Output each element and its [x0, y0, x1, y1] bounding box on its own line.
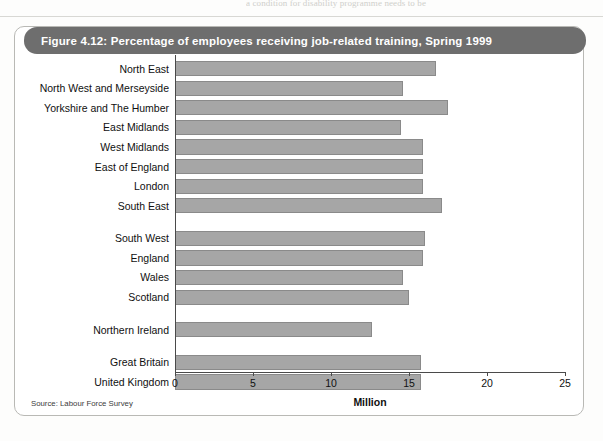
bar-row: West Midlands — [15, 137, 583, 157]
bar-category-label: London — [15, 181, 175, 192]
x-axis-tick-label: 15 — [403, 377, 415, 389]
bar-category-label: North East — [15, 64, 175, 75]
bar-track — [175, 59, 583, 79]
bar-track — [175, 248, 583, 268]
x-axis-title: Million — [175, 396, 565, 408]
bar — [175, 120, 401, 135]
x-axis-tick-label: 10 — [325, 377, 337, 389]
bar — [175, 100, 448, 115]
bar-group-spacer — [15, 216, 583, 229]
bar-category-label: England — [15, 253, 175, 264]
bar-track — [175, 98, 583, 118]
bar-category-label: Scotland — [15, 292, 175, 303]
bar — [175, 290, 409, 305]
bar-track — [175, 157, 583, 177]
bar — [175, 139, 423, 154]
bar-row: North East — [15, 59, 583, 79]
bar-track — [175, 196, 583, 216]
bar — [175, 250, 423, 265]
bar-row: Yorkshire and The Humber — [15, 98, 583, 118]
chart-plot-area: North EastNorth West and MerseysideYorks… — [15, 55, 583, 415]
bar-group-spacer — [15, 307, 583, 320]
bar-row: Wales — [15, 268, 583, 288]
bar-category-label: East Midlands — [15, 122, 175, 133]
bar-category-label: United Kingdom — [15, 377, 175, 388]
bar — [175, 61, 436, 76]
x-axis-tick-label: 20 — [481, 377, 493, 389]
bar — [175, 159, 423, 174]
bar-rows: North EastNorth West and MerseysideYorks… — [15, 59, 583, 392]
bar-category-label: Northern Ireland — [15, 325, 175, 336]
bar-category-label: South West — [15, 233, 175, 244]
bar-row: Northern Ireland — [15, 320, 583, 340]
bar-category-label: West Midlands — [15, 142, 175, 153]
bar-track — [175, 177, 583, 197]
bar — [175, 81, 403, 96]
bar-category-label: South East — [15, 201, 175, 212]
bar-row: Great Britain — [15, 353, 583, 373]
figure-panel: Figure 4.12: Percentage of employees rec… — [14, 26, 584, 416]
x-axis-tick-label: 5 — [250, 377, 256, 389]
figure-header-bar: Figure 4.12: Percentage of employees rec… — [24, 27, 586, 54]
bar-row: South East — [15, 196, 583, 216]
bar-category-label: Yorkshire and The Humber — [15, 103, 175, 114]
bar — [175, 270, 403, 285]
bar-row: East Midlands — [15, 118, 583, 138]
x-axis-tick-mark — [487, 372, 488, 376]
bar-group-spacer — [15, 340, 583, 353]
bar-track — [175, 268, 583, 288]
x-axis-tick-mark — [331, 372, 332, 376]
figure-title: Figure 4.12: Percentage of employees rec… — [24, 35, 492, 47]
bar-category-label: Great Britain — [15, 357, 175, 368]
bar-row: North West and Merseyside — [15, 79, 583, 99]
bar — [175, 179, 423, 194]
bar-row: London — [15, 177, 583, 197]
bar-row: England — [15, 248, 583, 268]
bar-row: Scotland — [15, 288, 583, 308]
bar-track — [175, 320, 583, 340]
y-axis-line — [175, 55, 176, 372]
page-bleed-text-top: a condition for disability programme nee… — [246, 0, 596, 12]
bar-track — [175, 229, 583, 249]
bar — [175, 198, 442, 213]
x-axis-tick-label: 25 — [559, 377, 571, 389]
source-note: Source: Labour Force Survey — [31, 399, 133, 408]
bar-track — [175, 79, 583, 99]
x-axis-ticks: 0510152025 — [175, 372, 565, 398]
bar-track — [175, 137, 583, 157]
bar-category-label: East of England — [15, 162, 175, 173]
bar-track — [175, 353, 583, 373]
bar-row: South West — [15, 229, 583, 249]
bar — [175, 322, 372, 337]
x-axis-tick-mark — [175, 372, 176, 376]
x-axis-tick-mark — [565, 372, 566, 376]
bar-row: East of England — [15, 157, 583, 177]
bar-category-label: North West and Merseyside — [15, 83, 175, 94]
x-axis-tick-label: 0 — [172, 377, 178, 389]
x-axis-tick-mark — [409, 372, 410, 376]
page-divider-rule — [0, 16, 603, 17]
x-axis-tick-mark — [253, 372, 254, 376]
bar — [175, 231, 425, 246]
bar-category-label: Wales — [15, 272, 175, 283]
bar-track — [175, 118, 583, 138]
bar — [175, 355, 421, 370]
bar-track — [175, 288, 583, 308]
